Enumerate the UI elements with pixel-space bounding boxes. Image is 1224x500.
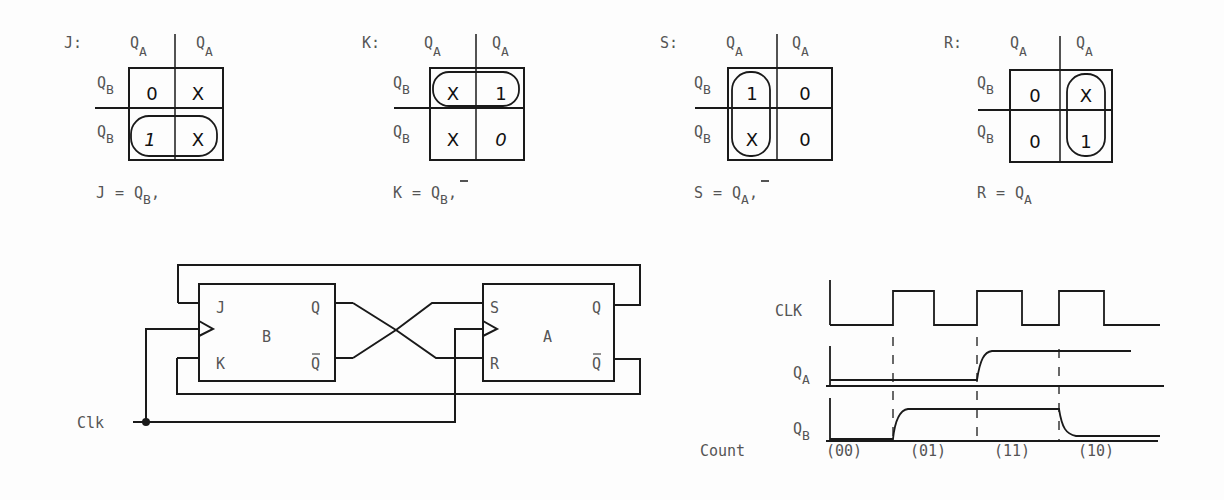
qb-waveform <box>830 409 1160 439</box>
flip-flop-circuit <box>133 265 640 425</box>
circuit-labels: J K B Q Q S R A Q Q Clk <box>77 299 601 432</box>
kmap-k-col1-header: QA <box>492 34 509 59</box>
kmap-r-cell-10: 0 <box>1029 131 1040 152</box>
wire-clk-to-a <box>146 329 483 422</box>
kmap-k-cell-01: 1 <box>495 83 506 104</box>
kmap-k-cell-00: X <box>447 83 459 104</box>
kmap-r-cell-00: 0 <box>1029 85 1040 106</box>
ff-b-output-q: Q <box>311 299 320 317</box>
flip-flop-b-clock-marker <box>199 321 213 336</box>
kmap-s-equation: S=QA, <box>694 184 758 207</box>
kmap-k-row1-header: QB <box>393 123 410 146</box>
kmap-r-cell-01: X <box>1080 85 1092 106</box>
qa-waveform <box>830 351 1131 380</box>
kmap-j: J: QA QA QB QB 0 X 1 X J=QB, <box>64 34 223 207</box>
kmap-r: R: QA QA QB QB 0 X 0 1 R=QA <box>944 34 1112 207</box>
clock-edge-markers <box>893 337 1059 441</box>
ff-a-input-s: S <box>490 299 499 317</box>
kmap-r-col1-header: QA <box>1076 34 1093 59</box>
kmap-j-col0-header: QA <box>130 34 147 59</box>
kmap-j-label: J: <box>64 34 82 52</box>
kmap-r-row1-header: QB <box>977 123 994 146</box>
kmap-r-equation: R=QA <box>977 184 1032 207</box>
ff-b-input-k: K <box>216 355 225 373</box>
wire-qb-to-r <box>353 303 483 358</box>
kmap-k-label: K: <box>362 34 380 52</box>
kmap-s-cell-01: 0 <box>799 83 810 104</box>
kmap-k: K: QA QA QB QB X 1 X 0 K=QB, <box>362 34 524 207</box>
kmap-s-cell-00: 1 <box>746 83 757 104</box>
kmap-j-cell-00: 0 <box>146 83 157 104</box>
kmap-s: S: QA QA QB QB 1 0 X 0 S=QA, <box>660 34 832 207</box>
kmap-s-label: S: <box>660 34 678 52</box>
kmap-j-row0-header: QB <box>97 74 114 97</box>
kmap-j-cell-10: 1 <box>144 129 155 150</box>
kmap-s-col1-header: QA <box>792 34 809 59</box>
kmap-r-cell-11: 1 <box>1080 131 1091 152</box>
ff-b-input-j: J <box>216 299 225 317</box>
timing-count-3: (10) <box>1078 442 1114 460</box>
kmap-k-equation: K=QB, <box>393 184 457 207</box>
kmap-s-row0-header: QB <box>694 74 711 97</box>
ff-b-name: B <box>262 328 271 346</box>
kmap-k-cell-10: X <box>447 129 459 150</box>
kmap-j-cell-01: X <box>192 83 204 104</box>
ff-a-name: A <box>543 328 552 346</box>
flip-flop-a-clock-marker <box>483 321 497 336</box>
kmap-s-col0-header: QA <box>726 34 743 59</box>
timing-count-2: (11) <box>994 442 1030 460</box>
ff-a-input-r: R <box>490 355 500 373</box>
kmap-j-col1-header: QA <box>196 34 213 59</box>
kmap-r-col0-header: QA <box>1010 34 1027 59</box>
kmap-k-col0-header: QA <box>424 34 441 59</box>
ff-a-output-q: Q <box>592 299 601 317</box>
ff-a-output-qbar: Q <box>592 355 601 373</box>
kmap-j-equation: J=QB, <box>96 184 160 207</box>
timing-signal-clk: CLK <box>775 302 802 320</box>
timing-diagram: CLK QA QB Count (00) (01) (11) (10) <box>700 280 1164 460</box>
ff-b-output-qbar: Q <box>311 355 320 373</box>
timing-signal-qb: QB <box>793 420 810 443</box>
kmap-j-cell-11: X <box>192 129 204 150</box>
kmap-s-row1-header: QB <box>694 123 711 146</box>
clk-waveform <box>830 291 1160 325</box>
digital-logic-figure: J: QA QA QB QB 0 X 1 X J=QB, K: QA QA QB… <box>0 0 1224 500</box>
timing-count-0: (00) <box>826 442 862 460</box>
wire-qabar-to-k <box>177 358 640 394</box>
kmap-s-cell-11: 0 <box>799 129 810 150</box>
timing-count-1: (01) <box>910 442 946 460</box>
clock-junction-dot <box>143 419 149 425</box>
clock-input-label: Clk <box>77 414 104 432</box>
kmap-s-cell-10: X <box>746 129 758 150</box>
timing-signal-qa: QA <box>793 364 810 387</box>
wire-clk-to-b <box>146 329 199 422</box>
kmap-r-label: R: <box>944 34 962 52</box>
kmap-r-row0-header: QB <box>977 74 994 97</box>
kmap-j-row1-header: QB <box>97 123 114 146</box>
kmap-k-cell-11: 0 <box>495 129 506 150</box>
wire-qbbar-to-s <box>353 303 483 358</box>
kmap-k-row0-header: QB <box>393 74 410 97</box>
timing-count-label: Count <box>700 442 745 460</box>
